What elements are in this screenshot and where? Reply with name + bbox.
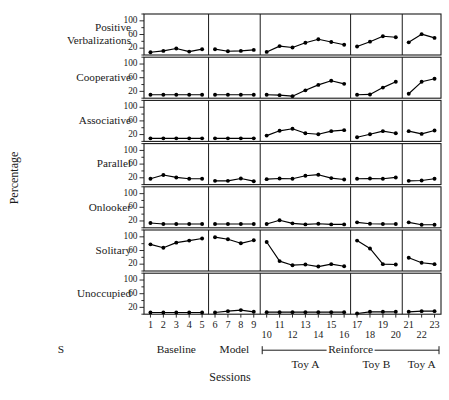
data-point xyxy=(252,93,256,97)
data-point xyxy=(407,179,411,183)
row-label: Positive xyxy=(95,21,131,33)
data-point xyxy=(407,92,411,96)
data-point xyxy=(407,256,411,260)
data-point xyxy=(291,94,295,98)
panel-frame xyxy=(144,100,441,141)
data-point xyxy=(329,222,333,226)
data-point xyxy=(239,177,243,181)
data-point xyxy=(200,311,204,315)
figure-container: Percentage2060100PositiveVerbalizations2… xyxy=(0,0,449,400)
data-point xyxy=(316,222,320,226)
data-point xyxy=(265,222,269,226)
y-tick-label: 20 xyxy=(128,129,138,139)
data-point xyxy=(187,50,191,54)
data-point xyxy=(226,222,230,226)
data-point xyxy=(174,175,178,179)
data-point xyxy=(187,222,191,226)
data-point xyxy=(316,132,320,136)
data-point xyxy=(316,37,320,41)
data-point xyxy=(329,129,333,133)
data-point xyxy=(265,50,269,54)
data-point xyxy=(342,264,346,268)
x-tick-label: 14 xyxy=(313,329,323,340)
x-tick-label: 22 xyxy=(417,329,427,340)
data-point xyxy=(161,93,165,97)
data-point xyxy=(368,222,372,226)
data-point xyxy=(252,222,256,226)
data-point xyxy=(161,246,165,250)
x-tick-label: 11 xyxy=(275,319,285,330)
data-point xyxy=(407,40,411,44)
data-point xyxy=(381,34,385,38)
data-point xyxy=(265,310,269,314)
data-point xyxy=(278,93,282,97)
data-point xyxy=(291,263,295,267)
panel-row: 2060100Unoccupied xyxy=(77,273,441,315)
y-tick-label: 100 xyxy=(123,188,137,198)
data-point xyxy=(200,222,204,226)
subject-label: S xyxy=(58,343,64,355)
panel-row: 2060100PositiveVerbalizations xyxy=(67,14,441,55)
data-point xyxy=(433,36,437,40)
data-point xyxy=(433,223,437,227)
data-point xyxy=(213,179,217,183)
data-point xyxy=(239,93,243,97)
data-point xyxy=(342,310,346,314)
data-point xyxy=(161,49,165,53)
data-point xyxy=(420,261,424,265)
data-point xyxy=(239,241,243,245)
data-point xyxy=(368,40,372,44)
data-point xyxy=(174,311,178,315)
x-tick-label: 9 xyxy=(251,319,256,330)
data-point xyxy=(329,176,333,180)
data-point xyxy=(394,175,398,179)
data-line-segment xyxy=(357,82,396,95)
data-point xyxy=(355,239,359,243)
data-point xyxy=(420,132,424,136)
phase-label-model: Model xyxy=(220,343,250,355)
data-point xyxy=(200,136,204,140)
data-point xyxy=(213,235,217,239)
x-tick-label: 15 xyxy=(326,319,336,330)
data-point xyxy=(174,136,178,140)
phase-labels: BaselineModelReinforceToy AToy BToy ASSe… xyxy=(58,343,439,384)
data-point xyxy=(174,47,178,51)
data-point xyxy=(433,309,437,313)
data-point xyxy=(303,222,307,226)
x-tick-label: 16 xyxy=(339,329,349,340)
data-point xyxy=(149,50,153,54)
data-point xyxy=(149,136,153,140)
phase-label-reinforce: Reinforce xyxy=(328,343,373,355)
data-line-segment xyxy=(357,36,396,46)
data-point xyxy=(174,93,178,97)
y-tick-label: 20 xyxy=(128,258,138,268)
data-point xyxy=(303,88,307,92)
panel-row: 2060100Cooperative xyxy=(76,57,441,98)
data-point xyxy=(342,222,346,226)
data-point xyxy=(368,247,372,251)
data-point xyxy=(342,43,346,47)
data-point xyxy=(303,131,307,135)
data-point xyxy=(239,49,243,53)
data-point xyxy=(342,128,346,132)
data-point xyxy=(381,129,385,133)
data-point xyxy=(394,263,398,267)
row-label: Cooperative xyxy=(76,71,131,83)
data-point xyxy=(303,41,307,45)
data-point xyxy=(329,79,333,83)
data-point xyxy=(355,45,359,49)
data-point xyxy=(394,131,398,135)
x-tick-label: 6 xyxy=(212,319,217,330)
multi-panel-line-chart: Percentage2060100PositiveVerbalizations2… xyxy=(0,0,449,400)
data-point xyxy=(187,311,191,315)
x-tick-label: 13 xyxy=(300,319,310,330)
data-point xyxy=(252,48,256,52)
data-point xyxy=(394,222,398,226)
data-point xyxy=(291,310,295,314)
data-point xyxy=(213,47,217,51)
data-point xyxy=(420,179,424,183)
x-tick-label: 19 xyxy=(378,319,388,330)
data-point xyxy=(407,129,411,133)
x-tick-label: 2 xyxy=(161,319,166,330)
data-point xyxy=(252,179,256,183)
